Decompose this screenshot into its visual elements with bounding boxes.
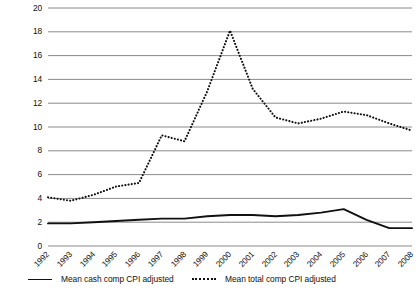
y-tick-label: 10: [20, 122, 42, 132]
y-tick-label: 14: [20, 74, 42, 84]
dotted-line-swatch-icon: [192, 278, 216, 280]
solid-line-swatch-icon: [28, 279, 52, 280]
y-tick-label: 2: [20, 217, 42, 227]
legend-item-mean-total-comp[interactable]: Mean total comp CPI adjusted: [192, 271, 336, 287]
legend-label-mean-total-comp: Mean total comp CPI adjusted: [225, 274, 336, 284]
y-tick-label: 4: [20, 193, 42, 203]
y-tick-label: 16: [20, 50, 42, 60]
y-tick-label: 8: [20, 145, 42, 155]
legend-item-mean-cash-comp[interactable]: Mean cash comp CPI adjusted: [28, 271, 174, 287]
gridlines: [48, 8, 412, 246]
legend-label-mean-cash-comp: Mean cash comp CPI adjusted: [61, 274, 174, 284]
plot-area: [0, 0, 419, 297]
chart-legend: Mean cash comp CPI adjusted Mean total c…: [0, 271, 419, 287]
y-tick-label: 20: [20, 3, 42, 13]
y-tick-label: 0: [20, 241, 42, 251]
y-tick-label: 6: [20, 169, 42, 179]
y-tick-label: 18: [20, 26, 42, 36]
y-tick-label: 12: [20, 98, 42, 108]
series-line-2: [48, 31, 412, 201]
compensation-line-chart: Compensation ($million) 2018161412108642…: [0, 0, 419, 297]
series-line-1: [48, 209, 412, 228]
